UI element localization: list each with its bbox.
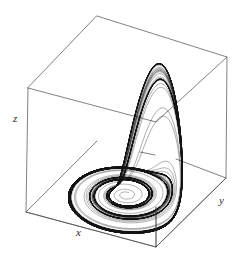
attractor-trajectory — [68, 63, 182, 233]
phase-portrait-plot — [0, 0, 242, 263]
box-edge-floor-back-right — [176, 159, 226, 178]
box-top-face — [28, 16, 227, 122]
box-edge-floor-back-left-b — [140, 152, 155, 155]
axis-label-y: y — [219, 195, 224, 206]
attractor-path-segment — [69, 65, 183, 233]
attractor-figure: x y z — [0, 0, 242, 263]
axes-box — [26, 16, 227, 247]
box-edge-left-vertical — [26, 88, 28, 212]
axis-label-z: z — [13, 113, 17, 124]
box-edge-floor-right-overlay — [156, 178, 226, 247]
axis-label-x: x — [76, 227, 81, 238]
axes-box-front-overlay — [26, 178, 226, 247]
box-edge-right-vertical — [226, 57, 227, 178]
